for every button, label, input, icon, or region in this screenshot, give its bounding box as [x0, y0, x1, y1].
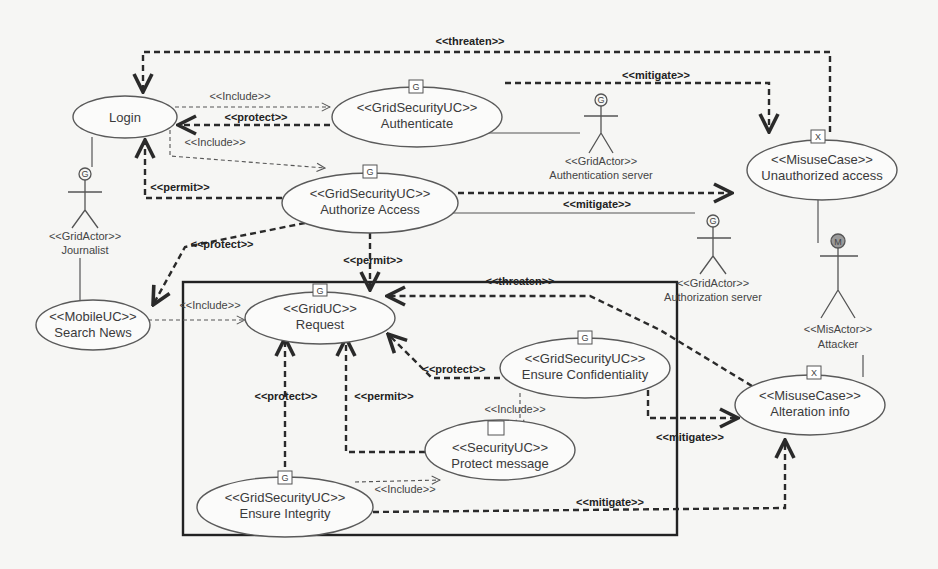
- mitigate-top-label: <<mitigate>>: [622, 69, 690, 81]
- svg-text:<<GridSecurityUC>>: <<GridSecurityUC>>: [310, 186, 431, 201]
- svg-text:Search News: Search News: [54, 325, 132, 340]
- usecase-search-news[interactable]: <<MobileUC>> Search News: [36, 300, 150, 350]
- usecase-login[interactable]: Login: [73, 96, 177, 138]
- usecase-authorize-access[interactable]: G <<GridSecurityUC>> Authorize Access: [282, 165, 458, 233]
- svg-text:G: G: [709, 216, 716, 226]
- include-label-2: <<Include>>: [184, 136, 245, 148]
- svg-text:Journalist: Journalist: [61, 244, 108, 256]
- svg-text:G: G: [366, 167, 373, 177]
- actor-journalist[interactable]: G <<GridActor>> Journalist: [49, 168, 121, 256]
- svg-text:G: G: [412, 82, 419, 92]
- mitigate-confidentiality-alteration: [648, 390, 738, 418]
- protect-label-2: <<protect>>: [191, 238, 254, 250]
- usecase-login-name: Login: [109, 110, 141, 125]
- threaten-top-label: <<threaten>>: [435, 35, 504, 47]
- include-label-5: <<Include>>: [374, 483, 435, 495]
- actor-authentication-server[interactable]: G <<GridActor>> Authentication server: [549, 94, 653, 181]
- svg-text:X: X: [815, 132, 821, 142]
- svg-text:Authenticate: Authenticate: [381, 116, 453, 131]
- svg-text:M: M: [834, 237, 842, 247]
- usecase-ensure-integrity[interactable]: G <<GridSecurityUC>> Ensure Integrity: [197, 471, 373, 537]
- permit-label-2: <<permit>>: [343, 254, 402, 266]
- protect-label-1: <<protect>>: [225, 111, 288, 123]
- misusecase-unauthorized-access[interactable]: X <<MisuseCase>> Unauthorized access: [747, 130, 897, 200]
- svg-text:Authentication server: Authentication server: [549, 169, 653, 181]
- svg-text:Authorize Access: Authorize Access: [320, 202, 420, 217]
- include-label-3: <<Include>>: [179, 299, 240, 311]
- mitigate-label-3: <<mitigate>>: [656, 431, 724, 443]
- mitigate-label-4: <<mitigate>>: [576, 496, 644, 508]
- svg-text:<<MisActor>>: <<MisActor>>: [804, 323, 872, 335]
- svg-text:<<SecurityUC>>: <<SecurityUC>>: [452, 440, 548, 455]
- usecase-request[interactable]: G <<GridUC>> Request: [245, 284, 395, 344]
- include-label-4: <<Include>>: [484, 403, 545, 415]
- threaten-label-2: <<threaten>>: [485, 275, 554, 287]
- protect-authorize-search: [153, 223, 305, 305]
- svg-text:Ensure Confidentiality: Ensure Confidentiality: [522, 367, 649, 382]
- misuse-case-diagram: <<threaten>> <<mitigate>> <<Include>> <<…: [0, 0, 938, 569]
- svg-text:Ensure Integrity: Ensure Integrity: [239, 506, 331, 521]
- svg-text:Protect message: Protect message: [451, 456, 549, 471]
- lock-icon: [488, 421, 504, 435]
- svg-text:G: G: [581, 333, 588, 343]
- usecase-protect-message[interactable]: <<SecurityUC>> Protect message: [425, 420, 575, 480]
- svg-text:<<GridSecurityUC>>: <<GridSecurityUC>>: [225, 490, 346, 505]
- svg-text:<<GridActor>>: <<GridActor>>: [677, 277, 749, 289]
- actor-authorization-server[interactable]: G <<GridActor>> Authorization server: [664, 215, 762, 303]
- protect-label-4: <<protect>>: [255, 390, 318, 402]
- svg-text:G: G: [316, 286, 323, 296]
- usecase-ensure-confidentiality[interactable]: G <<GridSecurityUC>> Ensure Confidential…: [500, 331, 670, 398]
- svg-text:G: G: [81, 169, 88, 179]
- svg-text:Attacker: Attacker: [818, 338, 859, 350]
- usecase-authenticate[interactable]: G <<GridSecurityUC>> Authenticate: [332, 80, 502, 147]
- protect-label-3: <<protect>>: [423, 363, 486, 375]
- permit-label-3: <<permit>>: [354, 390, 413, 402]
- svg-text:X: X: [811, 368, 817, 378]
- actor-attacker[interactable]: M <<MisActor>> Attacker: [804, 234, 872, 350]
- svg-text:<<GridUC>>: <<GridUC>>: [283, 301, 357, 316]
- svg-text:Authorization server: Authorization server: [664, 291, 762, 303]
- svg-text:<<GridSecurityUC>>: <<GridSecurityUC>>: [357, 100, 478, 115]
- svg-text:Request: Request: [296, 317, 345, 332]
- svg-text:<<GridActor>>: <<GridActor>>: [565, 155, 637, 167]
- mitigate-authenticate-unauthorized: [505, 83, 769, 132]
- mitigate-label-2: <<mitigate>>: [563, 198, 631, 210]
- svg-text:<<MobileUC>>: <<MobileUC>>: [49, 309, 136, 324]
- svg-text:G: G: [597, 95, 604, 105]
- svg-text:Alteration info: Alteration info: [770, 404, 850, 419]
- svg-text:<<GridSecurityUC>>: <<GridSecurityUC>>: [525, 351, 646, 366]
- include-integrity-protectmsg: [355, 480, 440, 482]
- include-label-1: <<Include>>: [209, 90, 270, 102]
- svg-text:<<MisuseCase>>: <<MisuseCase>>: [759, 388, 861, 403]
- svg-text:<<MisuseCase>>: <<MisuseCase>>: [771, 152, 873, 167]
- svg-text:G: G: [281, 473, 288, 483]
- svg-text:<<GridActor>>: <<GridActor>>: [49, 230, 121, 242]
- permit-label-1: <<permit>>: [150, 181, 209, 193]
- svg-text:Unauthorized access: Unauthorized access: [761, 168, 883, 183]
